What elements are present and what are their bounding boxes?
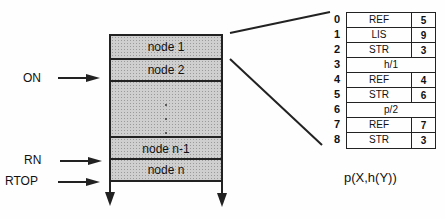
cell-tag: STR: [347, 43, 411, 57]
table-row: REF4: [347, 73, 435, 88]
row-index: 5: [328, 88, 340, 100]
cell-tag: STR: [347, 88, 411, 102]
cell-tag: STR: [347, 133, 411, 148]
row-index: 8: [328, 133, 340, 145]
table-row: STR3: [347, 43, 435, 58]
row-index: 4: [328, 73, 340, 85]
cell-value: 7: [411, 118, 435, 132]
cell-tag: REF: [347, 13, 411, 27]
table-row: h/1: [347, 58, 435, 73]
diagram: node 1 node 2 node n-1 node n ON RN RTOP…: [0, 0, 445, 219]
cell-tag: REF: [347, 118, 411, 132]
cell-tag: REF: [347, 73, 411, 87]
cell-value: 6: [411, 88, 435, 102]
row-index: 6: [328, 103, 340, 115]
table-row: LIS9: [347, 28, 435, 43]
row-index: 7: [328, 118, 340, 130]
cell-value: 3: [411, 43, 435, 57]
term-caption: p(X,h(Y)): [344, 170, 397, 185]
cell-functor: h/1: [347, 58, 435, 72]
cell-value: 9: [411, 28, 435, 42]
table-row: STR6: [347, 88, 435, 103]
table-row: REF5: [347, 13, 435, 28]
cell-tag: LIS: [347, 28, 411, 42]
table-row: REF7: [347, 118, 435, 133]
cell-value: 3: [411, 133, 435, 148]
heap-table: REF5 LIS9 STR3 h/1 REF4 STR6 p/2 REF7 ST…: [346, 12, 436, 149]
cell-functor: p/2: [347, 103, 435, 117]
row-index: 2: [328, 43, 340, 55]
table-row: p/2: [347, 103, 435, 118]
row-index: 3: [328, 58, 340, 70]
table-row: STR3: [347, 133, 435, 148]
cell-value: 4: [411, 73, 435, 87]
row-index: 1: [328, 28, 340, 40]
row-index: 0: [328, 13, 340, 25]
cell-value: 5: [411, 13, 435, 27]
